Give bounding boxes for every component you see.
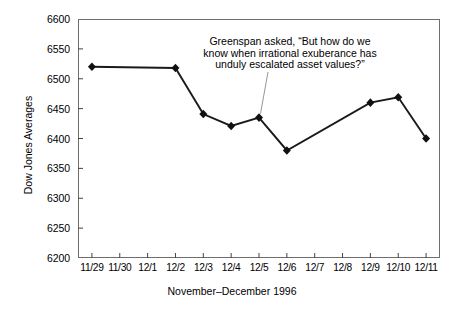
y-tick-label: 6550 (47, 43, 70, 55)
x-tick-label: 11/29 (80, 262, 103, 273)
x-tick-label: 12/4 (222, 262, 241, 273)
y-tick-label: 6500 (47, 73, 70, 85)
x-tick-label: 12/3 (194, 262, 213, 273)
x-tick-label: 12/1 (138, 262, 157, 273)
x-tick-label: 12/2 (166, 262, 185, 273)
x-tick-label: 12/7 (305, 262, 324, 273)
x-tick-label: 11/30 (108, 262, 131, 273)
x-tick-label: 12/9 (361, 262, 380, 273)
x-tick-label: 12/10 (386, 262, 410, 273)
x-tick-label: 12/11 (414, 262, 437, 273)
y-tick-label: 6400 (47, 133, 70, 145)
y-tick-label: 6350 (47, 162, 70, 174)
annotation-text: Greenspan asked, “But how do we know whe… (168, 36, 412, 71)
y-axis-title: Dow Jones Averages (22, 65, 34, 225)
x-tick-label: 12/6 (278, 262, 297, 273)
x-tick-label: 12/8 (333, 262, 352, 273)
x-axis-tick-labels: 11/2911/3012/112/212/312/412/512/612/712… (0, 262, 464, 282)
y-tick-label: 6250 (47, 222, 70, 234)
y-tick-label: 6300 (47, 192, 70, 204)
dow-jones-line-chart: 660065506500645064006350630062506200 Dow… (0, 0, 464, 311)
y-tick-label: 6600 (47, 13, 70, 25)
x-axis-title: November–December 1996 (0, 285, 464, 297)
y-tick-label: 6450 (47, 103, 70, 115)
x-tick-label: 12/5 (250, 262, 269, 273)
